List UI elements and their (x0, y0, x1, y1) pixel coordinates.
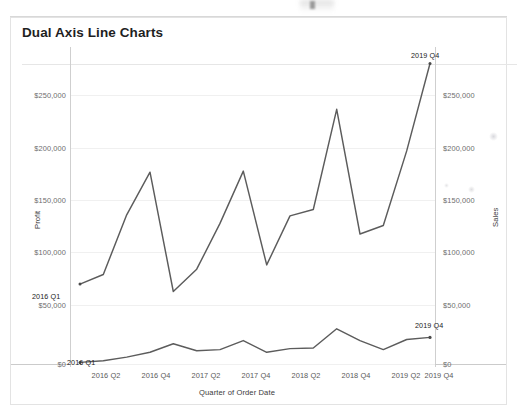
scan-smudge-right-3 (444, 183, 449, 188)
scan-smudge-right-2 (468, 186, 475, 193)
scan-artifact-dot (310, 1, 315, 9)
annotation-profit-2016-q1: 2016 Q1 (67, 358, 95, 367)
chart-title: Dual Axis Line Charts (22, 25, 163, 40)
sales-end-marker (429, 62, 432, 65)
scan-smudge-right-1 (489, 132, 498, 141)
profit-line (80, 329, 430, 363)
sales-start-marker (79, 283, 82, 286)
profit-end-marker (428, 336, 431, 339)
plot-area: $250,000 $200,000 $150,000 $100,000 $50,… (11, 47, 506, 404)
annotation-sales-2019-q4: 2019 Q4 (411, 51, 439, 60)
annotation-sales-2016-q1: 2016 Q1 (32, 292, 60, 301)
series-lines (11, 47, 506, 404)
scan-artifact (300, 0, 334, 12)
annotation-profit-2019-q4: 2019 Q4 (415, 321, 443, 330)
chart-screenshot: Dual Axis Line Charts $250,000 $200,000 … (0, 0, 517, 413)
sales-line (80, 64, 430, 292)
